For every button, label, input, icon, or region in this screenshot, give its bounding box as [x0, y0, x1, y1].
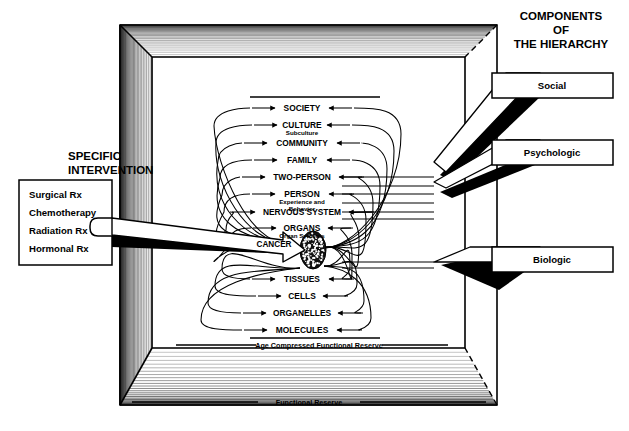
box-left-panel — [120, 25, 152, 405]
intervention-item: Chemotherapy — [29, 207, 97, 218]
level-sublabel: Organ Systems — [279, 232, 325, 239]
components-title-line3: THE HIERARCHY — [514, 38, 609, 50]
box-top-panel — [120, 25, 497, 57]
component-label-psychologic: Psychologic — [524, 147, 581, 158]
level-label-two-person: TWO-PERSON — [273, 172, 331, 182]
intervention-title-line2: INTERVENTION — [68, 164, 153, 176]
level-label-organelles: ORGANELLES — [273, 308, 332, 318]
hierarchy-labels: SOCIETYCULTURESubcultureCOMMUNITYFAMILYT… — [256, 103, 341, 335]
level-label-nervous-system: NERVOUS SYSTEM — [263, 207, 341, 217]
level-label-community: COMMUNITY — [276, 138, 328, 148]
intervention-title-line1: SPECIFIC — [68, 150, 121, 162]
intervention-item: Hormonal Rx — [29, 243, 89, 254]
intervention-item: Surgical Rx — [29, 189, 82, 200]
level-label-cancer: CANCER — [256, 240, 291, 249]
reserve-inner-label: Age Compressed Functional Reserve — [255, 341, 382, 350]
hierarchy-diagram: Age Compressed Functional Reserve Functi… — [0, 0, 629, 431]
level-sublabel: Experience and — [279, 198, 325, 205]
box-bottom-panel — [120, 348, 497, 405]
reserve-outer-label: Functional Reserve — [276, 398, 342, 407]
component-label-biologic: Biologic — [533, 254, 572, 265]
level-label-cells: CELLS — [288, 291, 316, 301]
components-title-line2: OF — [553, 24, 569, 36]
components-panel: COMPONENTS OF THE HIERARCHY SocialPsycho… — [492, 10, 613, 272]
level-label-family: FAMILY — [287, 155, 317, 165]
intervention-item: Radiation Rx — [29, 225, 88, 236]
level-label-molecules: MOLECULES — [276, 325, 329, 335]
level-label-tissues: TISSUES — [284, 274, 320, 284]
diagram-canvas: Age Compressed Functional Reserve Functi… — [0, 0, 629, 431]
level-sublabel: Subculture — [286, 129, 319, 136]
components-title-line1: COMPONENTS — [520, 10, 603, 22]
level-label-society: SOCIETY — [284, 103, 321, 113]
component-label-social: Social — [538, 80, 566, 91]
